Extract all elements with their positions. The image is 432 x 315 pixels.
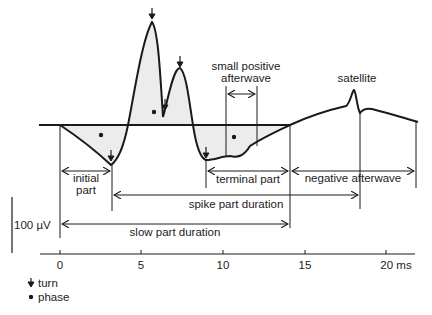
satellite-label: satellite (338, 72, 377, 84)
x-tick-label: 20 ms (380, 259, 412, 271)
x-tick-label: 15 (299, 259, 312, 271)
phase-dot-icon (99, 133, 103, 137)
small-positive-afterwave-label: small positive (211, 60, 280, 72)
turn-arrow-icon (149, 8, 155, 19)
x-axis: 0 5 10 15 20 ms (40, 250, 415, 271)
spike-part-duration-label: spike part duration (189, 198, 284, 210)
phase-dot-icon (232, 135, 236, 139)
legend-phase-label: phase (38, 291, 69, 303)
small-positive-afterwave-label-2: afterwave (221, 72, 271, 84)
arrow-down-icon (28, 278, 34, 287)
dot-icon (29, 295, 33, 299)
x-tick-label: 0 (57, 259, 63, 271)
turn-arrow-icon (177, 56, 183, 67)
negative-afterwave-label: negative afterwave (305, 172, 402, 184)
slow-part-duration-label: slow part duration (130, 226, 221, 238)
scale-bar-label: 100 µV (14, 219, 51, 231)
legend: turn phase (28, 277, 69, 303)
x-tick-label: 10 (217, 259, 230, 271)
initial-part-label-2: part (76, 184, 97, 196)
terminal-part-label: terminal part (216, 173, 281, 185)
legend-turn-label: turn (38, 277, 58, 289)
phase-dot-icon (152, 110, 156, 114)
waveform-diagram: small positive afterwave satellite initi… (0, 0, 432, 315)
x-tick-label: 5 (138, 259, 144, 271)
initial-part-label: initial (73, 172, 99, 184)
